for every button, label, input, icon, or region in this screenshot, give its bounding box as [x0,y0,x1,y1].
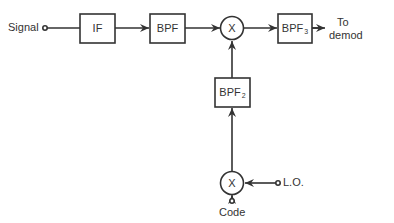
output-label-line1: To [337,17,349,28]
bpf-label-text: BPF [157,23,178,34]
output-label-line2: demod [329,30,363,41]
bpf3-subscript: 3 [304,28,308,35]
bpf2-block-label: BPF2 [215,78,250,107]
bpf2-label-text: BPF [219,87,240,98]
mixer-bottom-label: X [220,171,244,195]
bpf-block-label: BPF [150,14,185,43]
if-block-label: IF [80,14,115,43]
mixer-bottom-x-text: X [228,178,235,189]
code-label: Code [219,207,245,218]
code-terminal-icon [230,199,234,203]
signal-label: Signal [8,22,39,33]
bpf3-label-text: BPF [282,23,303,34]
signal-terminal-icon [43,26,47,30]
mixer-top-label: X [220,16,244,40]
if-label-text: IF [93,23,103,34]
lo-label: L.O. [283,177,304,188]
bpf2-subscript: 2 [242,92,246,99]
mixer-top-x-text: X [228,23,235,34]
lo-terminal-icon [276,181,280,185]
bpf3-block-label: BPF3 [278,14,312,43]
